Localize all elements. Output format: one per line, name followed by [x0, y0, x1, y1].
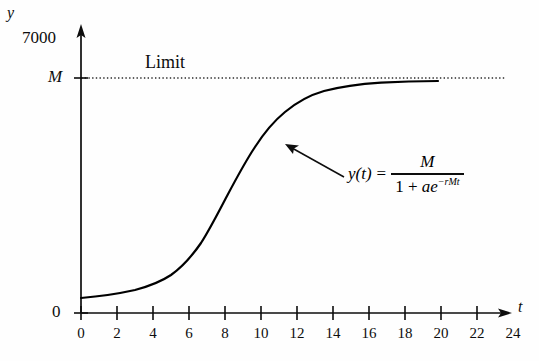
equation-denominator-exponent: −rMt	[438, 176, 460, 187]
chart-figure: y t 7000 M 0 0 2 4 6 8 10 12 14 16 18 20…	[0, 0, 539, 361]
equation-denominator-prefix: 1 +	[395, 177, 422, 196]
equation-numerator: M	[410, 152, 444, 173]
x-tick-label-24: 24	[506, 326, 521, 341]
y-tick-label-M: M	[48, 68, 62, 85]
x-tick-label-18: 18	[398, 326, 413, 341]
x-tick-label-22: 22	[470, 326, 485, 341]
equation-annotation: y(t) = M 1 + ae−rMt	[348, 152, 464, 197]
annotation-arrow-shaft	[292, 148, 344, 177]
x-tick-label-6: 6	[185, 326, 193, 341]
y-axis-label: y	[7, 5, 14, 21]
x-tick-label-0: 0	[77, 326, 85, 341]
equation-denominator: 1 + ae−rMt	[391, 175, 463, 197]
y-tick-label-7000: 7000	[22, 29, 56, 46]
x-axis-label: t	[518, 299, 522, 315]
equation-lhs: y(t)	[348, 164, 372, 184]
x-tick-label-12: 12	[290, 326, 305, 341]
x-tick-label-14: 14	[326, 326, 341, 341]
y-tick-label-0: 0	[52, 303, 61, 320]
x-tick-label-10: 10	[254, 326, 269, 341]
x-tick-label-8: 8	[221, 326, 229, 341]
x-tick-label-2: 2	[113, 326, 121, 341]
limit-annotation-label: Limit	[145, 53, 185, 71]
equation-equals-sign: =	[375, 164, 389, 184]
equation-denominator-base: ae	[422, 177, 438, 196]
x-tick-label-16: 16	[362, 326, 377, 341]
equation-fraction: M 1 + ae−rMt	[391, 152, 463, 197]
annotation-arrowhead	[285, 144, 299, 154]
x-tick-label-20: 20	[434, 326, 449, 341]
x-tick-label-4: 4	[149, 326, 157, 341]
